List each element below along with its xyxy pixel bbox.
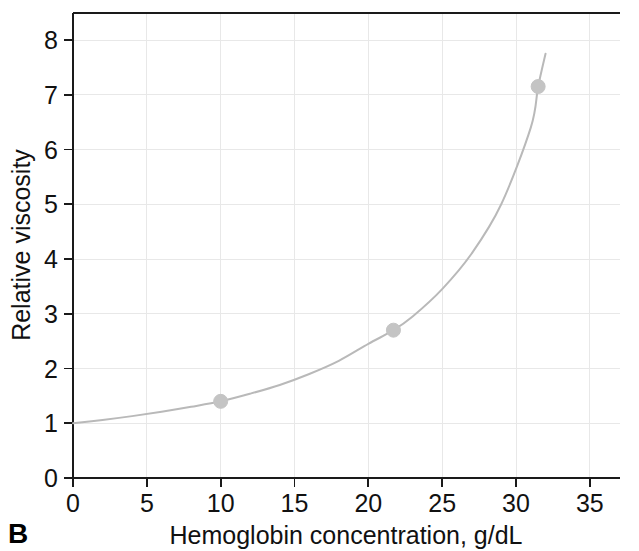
y-tick-label: 4 [44, 245, 58, 273]
y-tick-label: 2 [44, 355, 58, 383]
x-tick-label: 35 [576, 489, 604, 517]
x-axis-title: Hemoglobin concentration, g/dL [169, 521, 522, 549]
y-axis-tick-labels: 012345678 [44, 26, 58, 492]
y-tick-label: 3 [44, 300, 58, 328]
x-tick-label: 0 [66, 489, 80, 517]
x-tick-label: 5 [140, 489, 154, 517]
x-tick-label: 25 [428, 489, 456, 517]
x-tick-label: 30 [502, 489, 530, 517]
y-axis-title: Relative viscosity [7, 149, 35, 341]
panel-label: B [8, 518, 28, 549]
y-tick-label: 6 [44, 136, 58, 164]
x-tick-label: 10 [207, 489, 235, 517]
data-point [386, 323, 400, 337]
y-tick-label: 0 [44, 464, 58, 492]
x-tick-label: 20 [354, 489, 382, 517]
x-tick-label: 15 [281, 489, 309, 517]
y-axis-ticks [64, 40, 73, 478]
viscosity-chart: 012345678 05101520253035 Hemoglobin conc… [0, 0, 639, 551]
x-axis-tick-labels: 05101520253035 [66, 489, 604, 517]
y-tick-label: 8 [44, 26, 58, 54]
x-axis-ticks [73, 478, 590, 487]
figure-panel-b: 012345678 05101520253035 Hemoglobin conc… [0, 0, 639, 551]
data-point [531, 80, 545, 94]
y-tick-label: 5 [44, 190, 58, 218]
y-tick-label: 1 [44, 409, 58, 437]
data-point [214, 394, 228, 408]
y-tick-label: 7 [44, 81, 58, 109]
